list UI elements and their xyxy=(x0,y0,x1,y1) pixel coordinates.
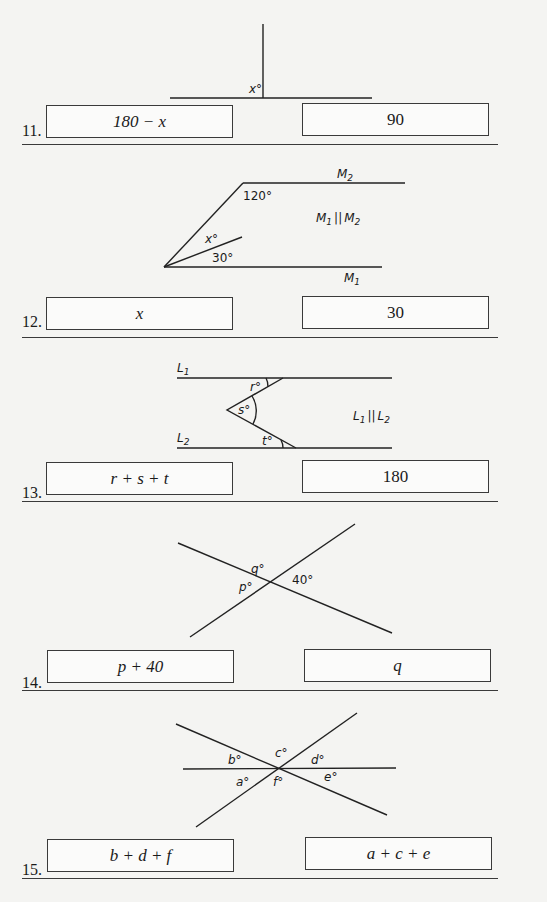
column-a-value: b + d + f xyxy=(110,846,172,866)
divider xyxy=(22,501,498,502)
label-a: a° xyxy=(236,775,249,789)
label-L1: L1 xyxy=(177,361,189,377)
divider xyxy=(22,878,498,879)
label-M1: M1 xyxy=(344,271,360,287)
column-b-value: a + c + e xyxy=(367,844,431,864)
label-q: q° xyxy=(251,562,265,576)
label-x: x° xyxy=(204,232,218,246)
column-b-box: a + c + e xyxy=(305,837,492,870)
column-b-box: 90 xyxy=(302,103,489,136)
column-b-box: 30 xyxy=(302,296,489,329)
divider xyxy=(22,690,498,691)
column-b-value: q xyxy=(393,656,402,676)
label-t: t° xyxy=(262,434,273,448)
column-a-value: 180 − x xyxy=(113,112,166,132)
label-r: r° xyxy=(250,380,261,394)
column-a-box: p + 40 xyxy=(47,650,234,683)
column-b-value: 30 xyxy=(387,303,404,323)
problem-number: 13. xyxy=(22,484,42,502)
divider xyxy=(22,144,498,145)
label-b: b° xyxy=(228,753,242,767)
column-b-box: q xyxy=(304,649,491,682)
label-d: d° xyxy=(311,753,325,767)
label-parallel-L: L1||L2 xyxy=(353,409,390,425)
label-s: s° xyxy=(238,403,250,417)
figure-15: b° c° d° a° f° e° xyxy=(176,713,396,827)
problem-number: 15. xyxy=(22,861,42,879)
label-120: 120° xyxy=(243,189,272,203)
figure-14: q° p° 40° xyxy=(178,524,392,637)
problem-number: 11. xyxy=(22,122,41,140)
figure-11: x° xyxy=(170,24,372,98)
label-L2: L2 xyxy=(177,431,190,447)
label-e: e° xyxy=(324,770,337,784)
column-b-value: 180 xyxy=(383,467,409,487)
column-a-value: x xyxy=(136,304,144,324)
label-x: x° xyxy=(248,82,262,96)
divider xyxy=(22,337,498,338)
column-a-value: p + 40 xyxy=(118,657,163,677)
column-a-value: r + s + t xyxy=(111,469,169,489)
column-b-box: 180 xyxy=(302,460,489,493)
column-b-value: 90 xyxy=(387,110,404,130)
label-f: f° xyxy=(273,775,283,789)
column-a-box: b + d + f xyxy=(47,839,234,872)
label-parallel-M: M1||M2 xyxy=(316,211,361,227)
figure-13: L1 r° s° L1||L2 L2 t° xyxy=(177,361,392,448)
column-a-box: 180 − x xyxy=(46,105,233,138)
label-M2: M2 xyxy=(337,167,353,183)
label-30: 30° xyxy=(212,251,233,265)
label-c: c° xyxy=(275,746,288,760)
column-a-box: r + s + t xyxy=(46,462,233,495)
column-a-box: x xyxy=(46,297,233,330)
label-40: 40° xyxy=(292,573,313,587)
label-p: p° xyxy=(238,580,253,594)
problem-number: 12. xyxy=(22,313,42,331)
figure-12: M2 120° M1||M2 x° 30° M1 xyxy=(164,167,405,287)
